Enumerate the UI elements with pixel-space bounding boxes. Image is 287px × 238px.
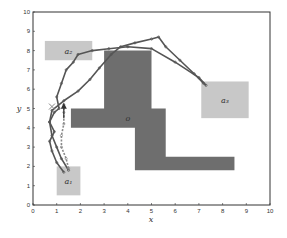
x-tick-label: 2	[79, 208, 83, 214]
y-tick-label: 4	[27, 125, 31, 131]
region-a1: a₁	[57, 166, 81, 195]
y-tick-label: 5	[27, 106, 31, 112]
x-tick-label: 1	[55, 208, 59, 214]
y-axis-label: y	[16, 104, 22, 113]
y-tick-label: 10	[23, 9, 30, 15]
x-tick-label: 8	[221, 208, 225, 214]
y-tick-label: 6	[27, 86, 31, 92]
x-tick-label: 9	[245, 208, 249, 214]
x-tick-label: 5	[150, 208, 154, 214]
region-a2: a₂	[45, 41, 92, 60]
y-tick-label: 3	[27, 144, 31, 150]
y-tick-label: 7	[27, 67, 31, 73]
y-tick-label: 1	[27, 183, 31, 189]
x-tick-label: 6	[174, 208, 178, 214]
region-label: a₂	[65, 47, 73, 56]
region-label: a₁	[65, 177, 73, 186]
y-tick-label: 2	[27, 163, 31, 169]
y-tick-label: 8	[27, 48, 31, 54]
x-tick-label: 10	[267, 208, 274, 214]
region-a3: a₃	[201, 81, 248, 118]
obstacle-label: o	[125, 114, 130, 123]
trajectory-plot: a₁a₂a₃ o 012345678910 012345678910 x y	[0, 0, 287, 238]
x-axis-label: x	[149, 215, 154, 224]
up-arrow-icon	[61, 103, 67, 119]
y-tick-label: 9	[27, 28, 31, 34]
x-tick-label: 0	[31, 208, 35, 214]
region-label: a₃	[221, 96, 229, 105]
x-tick-label: 3	[102, 208, 106, 214]
x-tick-label: 7	[197, 208, 201, 214]
cross-marker-icon	[49, 104, 55, 110]
y-tick-label: 0	[27, 202, 31, 208]
x-tick-label: 4	[126, 208, 130, 214]
